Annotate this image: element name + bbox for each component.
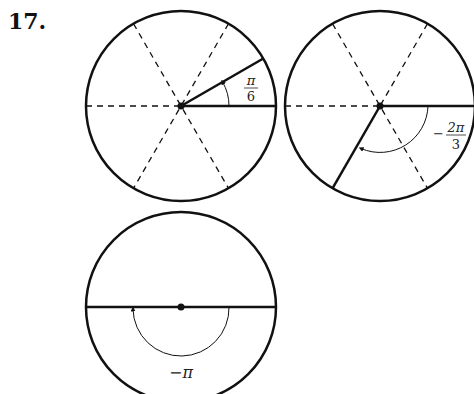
unit-circle-diagrams: π 6 − 2π 3 −π [0, 0, 474, 394]
angle-label-numerator: 2π [447, 120, 465, 135]
angle-label-sign: − [433, 126, 444, 141]
circle-diagram-neg-2pi-over-3: − 2π 3 [285, 11, 474, 201]
angle-label-denominator: 3 [452, 137, 460, 152]
angle-label: −π [169, 363, 193, 382]
angle-label-denominator: 6 [247, 89, 255, 104]
circle-diagram-neg-pi: −π [86, 212, 276, 394]
circle-diagram-pi-over-6: π 6 [86, 11, 276, 201]
angle-label-numerator: π [246, 73, 256, 88]
